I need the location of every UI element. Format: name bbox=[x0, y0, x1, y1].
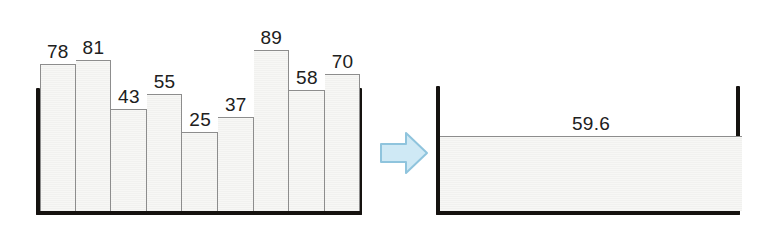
left-vessel-floor bbox=[36, 211, 362, 215]
bar-column: 55 bbox=[147, 18, 183, 211]
bar-value-label: 81 bbox=[83, 38, 105, 57]
bar-body bbox=[147, 94, 183, 211]
diagram-canvas: 788143552537895870 59.6 bbox=[0, 0, 784, 228]
bar-body bbox=[111, 109, 147, 211]
bar-group: 788143552537895870 bbox=[40, 18, 360, 211]
right-vessel-floor bbox=[436, 211, 740, 215]
right-arrow-icon bbox=[378, 128, 430, 178]
leveled-panel: 59.6 bbox=[436, 86, 746, 215]
bar-body bbox=[254, 50, 290, 211]
bar-column: 89 bbox=[254, 18, 290, 211]
bar-body bbox=[325, 74, 361, 211]
bar-body bbox=[182, 132, 218, 211]
bar-body bbox=[218, 117, 254, 211]
bar-value-label: 70 bbox=[332, 52, 354, 71]
bar-column: 81 bbox=[76, 18, 112, 211]
bar-value-label: 58 bbox=[296, 68, 318, 87]
bar-column: 58 bbox=[289, 18, 325, 211]
bar-value-label: 43 bbox=[118, 87, 140, 106]
bar-column: 78 bbox=[40, 18, 76, 211]
bar-body bbox=[40, 64, 76, 211]
bar-column: 25 bbox=[182, 18, 218, 211]
bar-body bbox=[76, 60, 112, 211]
level-fill bbox=[440, 136, 742, 211]
unequal-bars-panel: 788143552537895870 bbox=[36, 10, 366, 215]
bar-value-label: 89 bbox=[260, 28, 282, 47]
bar-value-label: 78 bbox=[47, 42, 69, 61]
bar-column: 70 bbox=[325, 18, 361, 211]
bar-value-label: 55 bbox=[154, 72, 176, 91]
level-value-label: 59.6 bbox=[572, 114, 610, 133]
bar-value-label: 37 bbox=[225, 95, 247, 114]
bar-value-label: 25 bbox=[189, 110, 211, 129]
bar-column: 37 bbox=[218, 18, 254, 211]
bar-column: 43 bbox=[111, 18, 147, 211]
bar-body bbox=[289, 90, 325, 211]
